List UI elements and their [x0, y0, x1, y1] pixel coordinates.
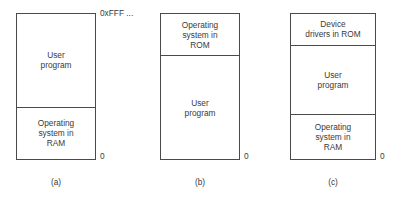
memory-region-label: Operating system in RAM: [38, 118, 74, 148]
bottom-address-label: 0: [100, 152, 105, 160]
memory-region-label: Device drivers in ROM: [305, 19, 360, 39]
column-caption-c: (c): [290, 178, 376, 186]
memory-stack-c: Device drivers in ROM User program Opera…: [290, 13, 376, 160]
memory-layout-diagram: User program Operating system in RAM 0xF…: [0, 0, 394, 198]
memory-region-user-program: User program: [161, 56, 239, 159]
memory-region-label: Operating system in RAM: [315, 122, 351, 152]
memory-column-a: User program Operating system in RAM 0xF…: [0, 0, 140, 198]
top-address-label: 0xFFF ...: [100, 9, 133, 17]
memory-region-operating-system: Operating system in RAM: [17, 108, 95, 159]
column-caption-a: (a): [16, 178, 96, 186]
memory-region-label: User program: [41, 50, 72, 70]
memory-column-c: Device drivers in ROM User program Opera…: [270, 0, 394, 198]
memory-region-operating-system: Operating system in ROM: [161, 14, 239, 56]
memory-region-operating-system: Operating system in RAM: [291, 115, 375, 159]
memory-stack-a: User program Operating system in RAM: [16, 13, 96, 160]
memory-region-user-program: User program: [17, 14, 95, 108]
memory-column-b: Operating system in ROM User program 0 (…: [140, 0, 270, 198]
memory-region-label: User program: [185, 98, 216, 118]
column-caption-b: (b): [160, 178, 240, 186]
memory-region-label: User program: [318, 70, 349, 90]
memory-region-label: Operating system in ROM: [182, 20, 218, 50]
memory-stack-b: Operating system in ROM User program: [160, 13, 240, 160]
memory-region-device-drivers: Device drivers in ROM: [291, 14, 375, 46]
bottom-address-label: 0: [380, 152, 385, 160]
memory-region-user-program: User program: [291, 46, 375, 115]
bottom-address-label: 0: [244, 152, 249, 160]
